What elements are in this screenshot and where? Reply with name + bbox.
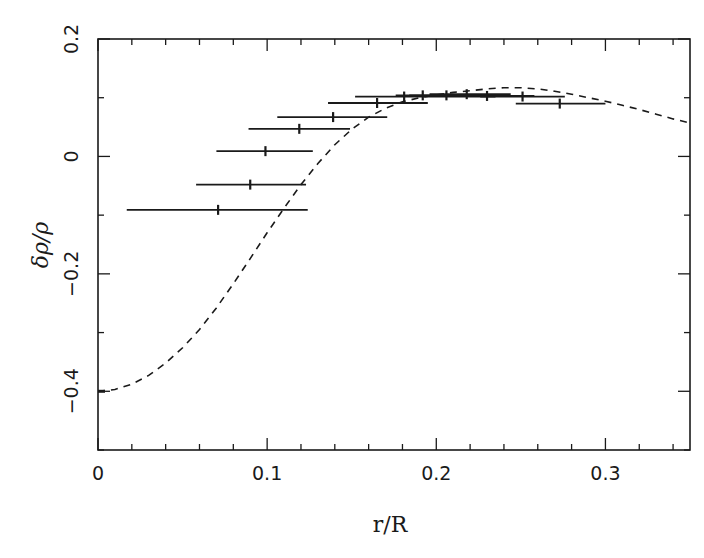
error-bar-point — [249, 124, 350, 134]
x-axis-title: r/R — [373, 512, 409, 537]
plot-frame — [98, 39, 690, 450]
plot-border — [98, 39, 690, 450]
y-tick-label: −0.4 — [60, 368, 82, 414]
x-tick-label: 0.2 — [421, 462, 451, 484]
y-tick-label: 0 — [60, 150, 82, 162]
axis-ticks — [98, 39, 690, 450]
x-tick-label: 0 — [92, 462, 104, 484]
y-tick-label: −0.2 — [60, 251, 82, 297]
x-tick-label: 0.3 — [590, 462, 620, 484]
error-bar-point — [216, 146, 312, 156]
error-bar-point — [196, 180, 306, 190]
error-bar-point — [430, 89, 511, 99]
error-bar-point — [480, 92, 565, 102]
x-tick-label: 0.1 — [252, 462, 282, 484]
dashed-curve — [98, 88, 690, 392]
error-bar-point — [277, 112, 387, 122]
chart: 00.10.20.3−0.4−0.200.2 r/R δρ/ρ — [0, 0, 704, 558]
y-axis-title: δρ/ρ — [28, 222, 53, 269]
model-curve — [98, 88, 690, 392]
axis-labels: 00.10.20.3−0.4−0.200.2 — [60, 24, 621, 484]
data-points — [127, 89, 606, 215]
error-bar-point — [516, 99, 606, 109]
y-tick-label: 0.2 — [60, 24, 82, 54]
